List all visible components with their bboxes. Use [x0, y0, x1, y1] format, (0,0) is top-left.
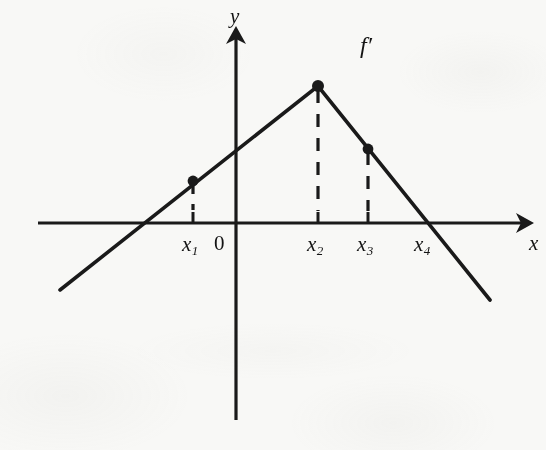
- curve-name-label: f′: [360, 33, 372, 57]
- graph-canvas: [0, 0, 546, 450]
- point-marker-x1: [188, 176, 199, 187]
- y-axis-label: y: [230, 6, 239, 27]
- tick-label-x2: x2: [307, 234, 323, 255]
- origin-label: 0: [214, 233, 225, 254]
- point-marker-x2: [312, 80, 324, 92]
- x-axis-label: x: [529, 233, 538, 254]
- tick-label-x3: x3: [357, 234, 373, 255]
- f-prime-curve: [60, 86, 490, 300]
- figure-root: y x 0 x1 x2 x3 x4 f′: [0, 0, 546, 450]
- tick-label-x1: x1: [182, 234, 198, 255]
- tick-label-x4: x4: [414, 234, 430, 255]
- point-marker-x3: [363, 144, 374, 155]
